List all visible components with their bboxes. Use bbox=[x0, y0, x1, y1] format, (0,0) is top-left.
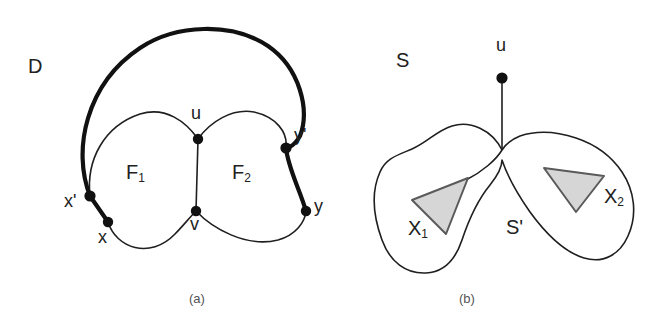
label-face-f1-subscript: 1 bbox=[138, 171, 145, 185]
edge-x-v bbox=[108, 211, 196, 249]
label-face-f1-letter: F bbox=[126, 161, 138, 183]
label-node-x-prime: x' bbox=[64, 192, 76, 210]
edge-v-y bbox=[196, 211, 306, 242]
label-set-x2-subscript: 2 bbox=[617, 195, 624, 209]
label-node-x: x bbox=[98, 228, 107, 246]
label-region-s: S bbox=[396, 50, 409, 70]
label-set-x1-letter: X bbox=[408, 217, 421, 239]
label-set-x2: X2 bbox=[604, 186, 624, 208]
label-node-v: v bbox=[190, 215, 199, 233]
label-region-d: D bbox=[28, 56, 42, 76]
label-set-x2-letter: X bbox=[604, 185, 617, 207]
node-yprime bbox=[280, 142, 291, 153]
label-node-u: u bbox=[191, 104, 201, 122]
label-set-x1: X1 bbox=[408, 218, 428, 240]
label-face-f2-subscript: 2 bbox=[244, 171, 251, 185]
node-u bbox=[193, 134, 203, 144]
shape-x2-triangle bbox=[544, 168, 604, 212]
label-face-f2: F2 bbox=[232, 162, 251, 184]
label-node-u-b: u bbox=[496, 36, 506, 54]
label-node-y: y bbox=[314, 197, 323, 215]
node-u-b bbox=[496, 72, 507, 83]
panel-b-graphics bbox=[374, 72, 634, 273]
figure-svg bbox=[0, 0, 654, 328]
node-y bbox=[301, 206, 311, 216]
label-face-f2-letter: F bbox=[232, 161, 244, 183]
label-region-s-prime: S' bbox=[506, 217, 523, 237]
edge-u-yprime bbox=[198, 111, 286, 148]
node-xprime bbox=[84, 190, 95, 201]
node-x bbox=[103, 217, 113, 227]
label-node-y-prime: y' bbox=[294, 126, 306, 144]
figure-container: D F1 F2 u v x x' y y' (a) S u X1 X2 S' (… bbox=[0, 0, 654, 328]
label-face-f1: F1 bbox=[126, 162, 145, 184]
label-set-x1-subscript: 1 bbox=[421, 227, 428, 241]
edge-u-v bbox=[196, 139, 198, 211]
caption-panel-b: (b) bbox=[459, 292, 475, 305]
caption-panel-a: (a) bbox=[189, 292, 205, 305]
